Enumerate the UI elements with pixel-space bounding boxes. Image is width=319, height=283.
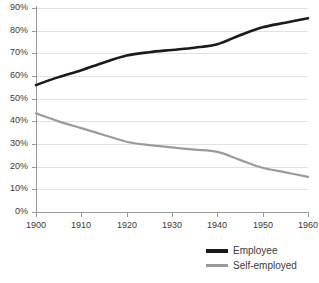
y-axis-label: 30% — [0, 139, 28, 148]
x-axis-label: 1940 — [197, 220, 237, 230]
chart-legend: Employee Self-employed — [206, 243, 316, 273]
x-axis-tick — [308, 213, 309, 217]
x-axis-tick — [127, 213, 128, 217]
legend-label-self-employed: Self-employed — [233, 260, 297, 271]
legend-swatch-self-employed-icon — [206, 264, 228, 267]
gridline — [36, 76, 308, 77]
x-axis-label: 1900 — [16, 220, 56, 230]
y-axis-label: 90% — [0, 3, 28, 12]
x-axis-label: 1920 — [107, 220, 147, 230]
x-axis-label: 1950 — [243, 220, 283, 230]
y-axis-label: 70% — [0, 48, 28, 57]
gridline — [36, 31, 308, 32]
series-lines — [0, 0, 319, 283]
x-axis-tick — [36, 213, 37, 217]
y-axis-label: 10% — [0, 184, 28, 193]
x-axis-tick — [172, 213, 173, 217]
gridline — [36, 189, 308, 190]
legend-swatch-employee-icon — [206, 249, 228, 253]
x-axis-label: 1910 — [61, 220, 101, 230]
gridline — [36, 99, 308, 100]
y-axis-label: 0% — [0, 207, 28, 216]
gridline — [36, 121, 308, 122]
x-axis-tick — [81, 213, 82, 217]
gridline — [36, 8, 308, 9]
gridline — [36, 144, 308, 145]
legend-item-self-employed[interactable]: Self-employed — [206, 258, 316, 273]
gridline — [36, 167, 308, 168]
legend-item-employee[interactable]: Employee — [206, 243, 316, 258]
y-axis-label: 60% — [0, 71, 28, 80]
x-axis-tick — [263, 213, 264, 217]
gridline — [36, 53, 308, 54]
legend-label-employee: Employee — [233, 245, 277, 256]
x-axis-tick — [217, 213, 218, 217]
line-chart: 0%10%20%30%40%50%60%70%80%90% 1900191019… — [0, 0, 319, 283]
x-axis-label: 1960 — [288, 220, 319, 230]
y-axis-label: 50% — [0, 94, 28, 103]
y-axis-line — [36, 6, 37, 214]
y-axis-label: 80% — [0, 26, 28, 35]
y-axis-label: 20% — [0, 162, 28, 171]
y-axis-label: 40% — [0, 116, 28, 125]
x-axis-label: 1930 — [152, 220, 192, 230]
